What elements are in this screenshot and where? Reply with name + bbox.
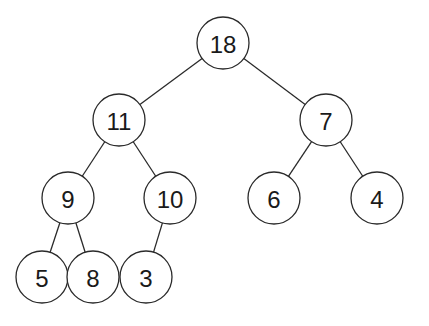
tree-node-10: 10 (144, 172, 196, 224)
tree-node-3: 3 (120, 251, 172, 303)
edge-9-5 (50, 223, 60, 253)
tree-node-6: 6 (248, 172, 300, 224)
tree-node-9: 9 (42, 172, 94, 224)
node-label: 9 (61, 186, 74, 213)
node-label: 6 (267, 186, 280, 213)
edge-18-7 (244, 59, 305, 105)
edge-7-4 (340, 142, 363, 176)
edge-11-9 (82, 142, 105, 176)
nodes-group: 1811791064583 (16, 17, 403, 303)
edges-group (50, 58, 363, 252)
tree-svg: 1811791064583 (0, 0, 429, 326)
node-label: 18 (210, 31, 237, 58)
node-label: 11 (107, 108, 132, 135)
edge-9-8 (76, 223, 85, 252)
tree-node-18: 18 (197, 17, 249, 69)
edge-11-10 (133, 142, 156, 176)
node-label: 3 (139, 265, 152, 292)
tree-node-5: 5 (16, 251, 68, 303)
tree-node-11: 11 (93, 94, 145, 146)
edge-7-6 (288, 142, 311, 177)
node-label: 4 (370, 186, 383, 213)
tree-node-4: 4 (351, 172, 403, 224)
node-label: 7 (319, 108, 332, 135)
node-label: 5 (35, 265, 48, 292)
node-label: 10 (157, 186, 184, 213)
tree-node-7: 7 (300, 94, 352, 146)
tree-node-8: 8 (67, 251, 119, 303)
node-label: 8 (86, 265, 99, 292)
edge-10-3 (154, 223, 163, 252)
edge-18-11 (140, 58, 202, 104)
tree-diagram: 1811791064583 (0, 0, 429, 326)
